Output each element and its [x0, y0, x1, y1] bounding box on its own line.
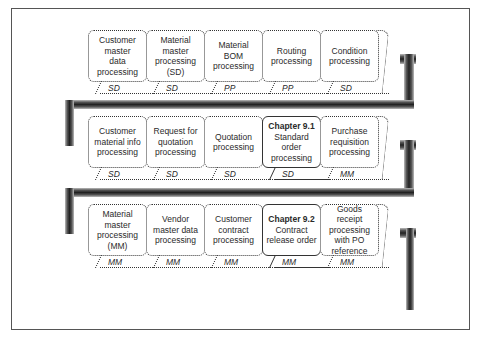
module-tag: MM [158, 256, 215, 268]
process-label-line: processing [329, 147, 370, 158]
process-label: Materialmasterprocessing(MM) [97, 209, 138, 251]
process-label-line: order [268, 142, 314, 153]
process-label-line: Customer [97, 35, 138, 46]
process-label-line: processing [97, 67, 138, 78]
process-box: Purchaserequisitionprocessing [320, 116, 379, 168]
process-label-line: Standard [268, 132, 314, 143]
module-tag: PP [274, 82, 331, 94]
process-label-line: processing [268, 153, 314, 164]
process-label: MaterialBOMprocessing [213, 40, 254, 72]
process-label: Customermaterial infoprocessing [94, 126, 140, 158]
process-label-line: Customer [213, 214, 254, 225]
process-label-line: contract [213, 225, 254, 236]
process-label-line: Material [97, 209, 138, 220]
module-tag: MM [100, 256, 157, 268]
module-tag: SD [216, 168, 273, 180]
process-box: Conditionprocessing [320, 30, 379, 82]
process-label: Routingprocessing [271, 46, 312, 67]
process-label-line: Routing [271, 46, 312, 57]
process-label-line: Customer [94, 126, 140, 137]
process-box: Customercontractprocessing [204, 204, 263, 256]
process-box: Customermasterdataprocessing [88, 30, 147, 82]
module-tag: SD [158, 168, 215, 180]
connector-pipe-left-2 [65, 188, 74, 234]
process-label-line: processing [153, 235, 198, 246]
process-label-line: Condition [329, 46, 370, 57]
process-label-line: master [97, 220, 138, 231]
process-box: Request forquotationprocessing [146, 116, 205, 168]
process-label-line: quotation [154, 137, 198, 148]
module-tag: SD [100, 168, 157, 180]
process-label: Customercontractprocessing [213, 214, 254, 246]
process-label-line: processing [97, 230, 138, 241]
process-label-line: processing [271, 56, 312, 67]
process-box: Customermaterial infoprocessing [88, 116, 147, 168]
process-label-line: release order [266, 235, 316, 246]
process-label: Chapter 9.2Contractrelease order [266, 214, 316, 246]
module-tag: SD [100, 82, 157, 94]
process-label: Customermasterdataprocessing [97, 35, 138, 77]
process-label-line: processing [324, 225, 375, 236]
process-box: MaterialBOMprocessing [204, 30, 263, 82]
process-label-line: material info [94, 137, 140, 148]
process-label-line: processing [154, 147, 198, 158]
process-label-line: requisition [329, 137, 370, 148]
process-label: Vendormaster dataprocessing [153, 214, 198, 246]
connector-pipe-left-1 [65, 100, 74, 146]
process-label-line: Quotation [213, 132, 254, 143]
process-label: Quotationprocessing [213, 132, 254, 153]
process-label-line: (SD) [155, 67, 196, 78]
module-tag: SD [158, 82, 215, 94]
module-tag: SD [274, 168, 331, 180]
chapter-label: Chapter 9.2 [266, 214, 316, 225]
module-tag: MM [216, 256, 273, 268]
module-tag: MM [332, 168, 389, 180]
process-label-line: processing [213, 142, 254, 153]
process-box: Routingprocessing [262, 30, 321, 82]
module-tag: MM [274, 256, 331, 268]
module-tag: MM [332, 256, 389, 268]
process-label-line: Goods receipt [324, 204, 375, 225]
process-label-line: reference [324, 246, 375, 257]
process-label: Goods receiptprocessingwith POreference [324, 204, 375, 257]
module-tag: SD [332, 82, 389, 94]
process-label-line: processing [213, 235, 254, 246]
process-box: Materialmasterprocessing(MM) [88, 204, 147, 256]
process-box: Vendormaster dataprocessing [146, 204, 205, 256]
process-label-line: Material [213, 40, 254, 51]
connector-pipe-top-2 [65, 100, 414, 109]
connector-pipe-exit [406, 228, 414, 310]
process-label-line: Material [155, 35, 196, 46]
process-label-line: with PO [324, 235, 375, 246]
process-label-line: processing [329, 56, 370, 67]
process-label-line: master [155, 46, 196, 57]
process-label: Conditionprocessing [329, 46, 370, 67]
process-label-line: master [97, 46, 138, 57]
process-label-line: processing [155, 56, 196, 67]
process-box: Quotationprocessing [204, 116, 263, 168]
process-box: Goods receiptprocessingwith POreference [320, 204, 379, 256]
process-label: Purchaserequisitionprocessing [329, 126, 370, 158]
process-label-line: processing [94, 147, 140, 158]
process-label-line: (MM) [97, 241, 138, 252]
process-label-line: BOM [213, 51, 254, 62]
chapter-label: Chapter 9.1 [268, 121, 314, 132]
process-label-line: processing [213, 61, 254, 72]
process-label: Materialmasterprocessing(SD) [155, 35, 196, 77]
process-label-line: Vendor [153, 214, 198, 225]
process-label: Request forquotationprocessing [154, 126, 198, 158]
process-label-line: master data [153, 225, 198, 236]
process-box: Materialmasterprocessing(SD) [146, 30, 205, 82]
process-label: Chapter 9.1Standardorderprocessing [268, 121, 314, 163]
process-box: Chapter 9.1Standardorderprocessing [262, 116, 321, 168]
process-label-line: data [97, 56, 138, 67]
process-label-line: Request for [154, 126, 198, 137]
process-box: Chapter 9.2Contractrelease order [262, 204, 321, 256]
process-label-line: Purchase [329, 126, 370, 137]
module-tag: PP [216, 82, 273, 94]
connector-pipe-top-3 [65, 188, 414, 197]
process-label-line: Contract [266, 225, 316, 236]
